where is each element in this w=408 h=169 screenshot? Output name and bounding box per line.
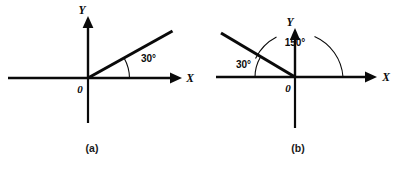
panel-b-caption: (b) [291,142,304,154]
figure-root: Y X 0 30° (a) [0,0,408,169]
panel-a-angle-arc [124,58,129,78]
panel-b-inner-angle-arc [255,57,261,77]
panel-b-x-axis-arrowhead [365,72,377,83]
panel-b-x-axis-label: X [381,71,390,83]
panel-a-origin-label: 0 [77,83,83,95]
panel-a-angle-label: 30° [141,53,156,64]
panel-a-group: Y X 0 30° (a) [8,4,194,154]
panel-b-y-axis-label: Y [286,16,294,28]
panel-a-y-axis-arrowhead [83,16,94,28]
panel-b-outer-angle-label: 150° [285,37,306,48]
angle-diagram-figure: Y X 0 30° (a) [0,0,408,169]
panel-b-inner-angle-label: 30° [236,59,251,70]
panel-a-caption: (a) [86,142,99,154]
panel-a-y-axis-label: Y [78,4,86,16]
panel-b-group: Y X 0 30° 150° (b) [216,16,390,154]
panel-b-outer-angle-arc-right [315,37,344,78]
panel-b-origin-label: 0 [285,82,291,94]
panel-a-x-axis-label: X [185,72,194,84]
panel-a-x-axis-arrowhead [170,73,182,84]
panel-a-angle-ray [88,31,173,78]
